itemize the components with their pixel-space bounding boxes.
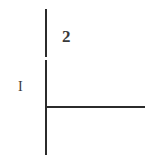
label-lower-segment: I: [18, 80, 23, 94]
vertical-line-upper-segment: [45, 9, 47, 57]
line-diagram-figure: 2 I: [0, 0, 161, 160]
label-upper-segment: 2: [62, 28, 71, 45]
horizontal-line: [46, 106, 145, 108]
